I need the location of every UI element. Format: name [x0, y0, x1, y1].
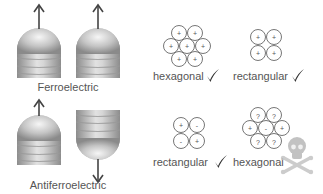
check-mark-icon [207, 69, 219, 82]
lattice-site: + [251, 46, 266, 61]
check-mark-icon [215, 155, 227, 168]
lattice-site: + [172, 52, 187, 67]
lattice-site: + [164, 39, 179, 54]
charge-label: + [179, 122, 183, 129]
lattice-site: + [243, 121, 258, 136]
pillar-dome [17, 115, 61, 141]
check-mark-icon [292, 69, 304, 82]
lattice-site: - [259, 121, 274, 136]
pillar-dome [76, 138, 120, 160]
pillar-ferro-2 [76, 5, 120, 78]
lattice-site: - [190, 118, 205, 133]
antiferroelectric-group: Antiferroelectric [17, 100, 120, 191]
lattice-site: + [188, 26, 203, 41]
charge-label: + [256, 50, 260, 57]
pillar-dome [17, 28, 61, 54]
arrow-up-icon [34, 100, 44, 116]
charge-label: + [193, 30, 197, 37]
lattice-site: + [174, 118, 189, 133]
charge-label: + [193, 56, 197, 63]
lattice-site: + [180, 39, 195, 54]
charge-label: + [185, 43, 189, 50]
charge-label: ? [256, 113, 260, 120]
pillar-dome [76, 28, 120, 54]
pillar-antiferro-2 [76, 110, 120, 182]
ferroelectric-group: Ferroelectric [17, 5, 120, 93]
charge-label: ? [256, 139, 260, 146]
charge-label: + [256, 34, 260, 41]
charge-label: ? [272, 139, 276, 146]
pillar-antiferro-1 [17, 100, 61, 165]
charge-label: + [248, 125, 252, 132]
lattice-site: + [267, 46, 282, 61]
lattice-site: + [190, 134, 205, 149]
lattice-site: ? [267, 108, 282, 123]
lattice-site: + [251, 30, 266, 45]
pillar-ferro-1 [17, 5, 61, 78]
lattice-label: rectangular [233, 70, 288, 82]
lattice-label: hexagonal [153, 70, 204, 82]
lattice-label: rectangular [153, 156, 208, 168]
charge-label: + [169, 43, 173, 50]
lattice-site: - [174, 134, 189, 149]
lattice-site: + [267, 30, 282, 45]
charge-label: + [272, 50, 276, 57]
lattice-site: ? [251, 134, 266, 149]
antiferroelectric-label: Antiferroelectric [30, 179, 107, 191]
charge-label: + [272, 34, 276, 41]
lattice-label: hexagonal [233, 156, 284, 168]
lattice-site: + [275, 121, 290, 136]
charge-label: + [201, 43, 205, 50]
lattice-site: + [196, 39, 211, 54]
charge-label: + [177, 56, 181, 63]
lattice-site: ? [267, 134, 282, 149]
lattice-rectangular-antiferroelectric: +--+ [174, 118, 205, 149]
arrow-up-icon [93, 5, 103, 29]
lattice-site: + [172, 26, 187, 41]
lattice-site: ? [251, 108, 266, 123]
charge-label: ? [272, 113, 276, 120]
lattice-site: + [188, 52, 203, 67]
skull-crossbones-icon [281, 137, 313, 174]
ferro-antiferro-diagram: Ferroelectric [0, 0, 323, 194]
charge-label: + [177, 30, 181, 37]
arrow-up-icon [34, 5, 44, 29]
charge-label: + [280, 125, 284, 132]
lattice-rectangular-ferroelectric: ++++ [251, 30, 282, 61]
lattice-hexagonal-antiferroelectric: ??+-+?? [243, 108, 290, 149]
lattice-hexagonal-ferroelectric: +++++++ [164, 26, 211, 67]
charge-label: + [195, 138, 199, 145]
ferroelectric-label: Ferroelectric [37, 81, 99, 93]
